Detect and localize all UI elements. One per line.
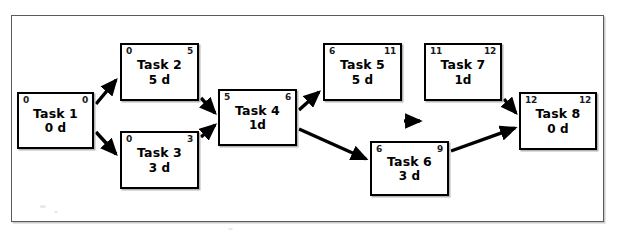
task-node-duration: 0 d <box>19 121 92 135</box>
task-node-body: Task 55 d <box>325 58 400 87</box>
task-node-task-7[interactable]: 1112Task 71d <box>424 43 502 101</box>
task-node-title: Task 5 <box>325 58 400 73</box>
task-node-title: Task 7 <box>426 58 500 73</box>
early-start-value: 6 <box>376 145 382 154</box>
task-node-title: Task 1 <box>19 107 92 122</box>
early-start-value: 0 <box>126 47 132 56</box>
task-node-title: Task 3 <box>122 146 197 161</box>
task-node-body: Task 41d <box>220 104 295 133</box>
page-speckle <box>54 211 58 213</box>
early-start-value: 5 <box>224 93 230 102</box>
task-node-title: Task 6 <box>372 155 447 170</box>
early-finish-value: 12 <box>484 47 496 56</box>
task-node-task-3[interactable]: 03Task 33 d <box>120 131 199 189</box>
task-node-task-2[interactable]: 05Task 25 d <box>120 43 199 101</box>
task-node-task-8[interactable]: 1212Task 80 d <box>519 92 597 150</box>
task-node-body: Task 63 d <box>372 155 447 184</box>
early-start-value: 11 <box>430 47 442 56</box>
early-finish-value: 3 <box>187 135 193 144</box>
page-speckle <box>228 228 233 230</box>
diagram-frame <box>11 15 604 222</box>
early-start-value: 0 <box>126 135 132 144</box>
task-node-duration: 5 d <box>122 73 197 87</box>
task-node-title: Task 4 <box>220 104 295 119</box>
task-node-task-4[interactable]: 56Task 41d <box>218 89 297 146</box>
task-node-task-1[interactable]: 00Task 10 d <box>17 92 94 149</box>
early-finish-value: 6 <box>285 93 291 102</box>
task-node-title: Task 8 <box>521 107 595 122</box>
task-node-body: Task 10 d <box>19 107 92 136</box>
task-node-body: Task 71d <box>426 58 500 87</box>
task-node-duration: 3 d <box>122 161 197 175</box>
task-node-task-5[interactable]: 611Task 55 d <box>323 43 402 101</box>
early-finish-value: 9 <box>437 145 443 154</box>
task-node-duration: 1d <box>426 73 500 87</box>
task-node-duration: 1d <box>220 118 295 132</box>
early-start-value: 0 <box>23 96 29 105</box>
task-node-body: Task 25 d <box>122 58 197 87</box>
task-node-title: Task 2 <box>122 58 197 73</box>
early-finish-value: 12 <box>579 96 591 105</box>
task-node-duration: 3 d <box>372 169 447 183</box>
early-finish-value: 11 <box>384 47 396 56</box>
task-node-body: Task 80 d <box>521 107 595 136</box>
early-start-value: 12 <box>525 96 537 105</box>
task-node-duration: 0 d <box>521 122 595 136</box>
task-node-task-6[interactable]: 69Task 63 d <box>370 141 449 196</box>
task-node-body: Task 33 d <box>122 146 197 175</box>
early-start-value: 6 <box>329 47 335 56</box>
early-finish-value: 0 <box>82 96 88 105</box>
network-diagram-screenshot: 00Task 10 d05Task 25 d03Task 33 d56Task … <box>0 0 617 236</box>
early-finish-value: 5 <box>187 47 193 56</box>
page-speckle <box>40 205 46 208</box>
task-node-duration: 5 d <box>325 73 400 87</box>
